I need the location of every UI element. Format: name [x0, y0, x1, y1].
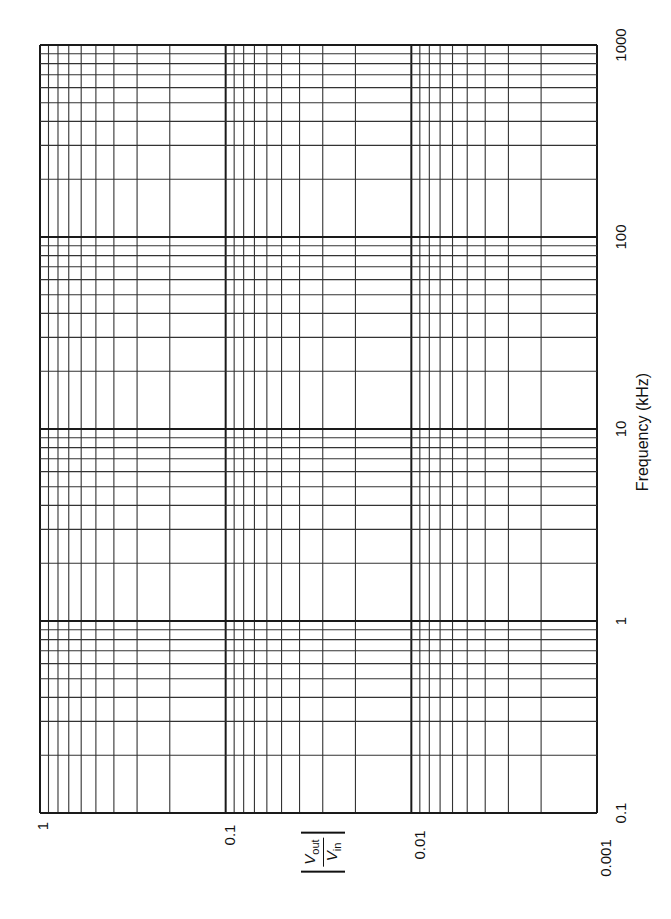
frequency-axis-title: Frequency (kHz) — [634, 373, 652, 491]
vout-symbol: V — [301, 855, 318, 865]
mag-tick-0.01: 0.01 — [411, 830, 428, 859]
freq-tick-0.1: 0.1 — [612, 803, 629, 824]
mag-tick-0.1: 0.1 — [221, 825, 238, 846]
freq-tick-1000: 1000 — [612, 28, 629, 61]
log-log-grid — [0, 0, 671, 919]
freq-tick-10: 10 — [612, 421, 629, 438]
abs-bar-left — [301, 871, 345, 873]
abs-bar-right — [301, 831, 345, 833]
magnitude-axis-title: Vout Vin — [301, 831, 345, 872]
in-subscript: in — [331, 843, 343, 852]
freq-tick-100: 100 — [612, 224, 629, 249]
out-subscript: out — [309, 839, 321, 854]
freq-tick-1: 1 — [612, 617, 629, 625]
mag-tick-0.001: 0.001 — [597, 839, 614, 877]
mag-tick-1: 1 — [34, 822, 51, 830]
vout-over-vin: Vout Vin — [302, 837, 345, 866]
vin-symbol: V — [323, 851, 340, 861]
